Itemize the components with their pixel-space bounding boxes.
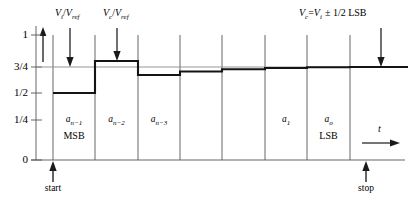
y-tick-label-zero: 0 — [6, 154, 28, 165]
y-tick-label-one-quarter: 1/4 — [2, 114, 28, 125]
time-axis-arrow — [362, 139, 400, 146]
start-event-label: start — [33, 184, 73, 194]
stop-event-label: stop — [346, 184, 386, 194]
bit-cell-label-msb: an−1 — [53, 115, 95, 127]
y-tick-label-1: 1 — [6, 29, 28, 40]
start-arrow — [49, 161, 56, 182]
y-axis-arrow — [40, 27, 47, 62]
dac-trial-waveform — [53, 61, 408, 93]
y-tick-label-three-quarters: 3/4 — [2, 61, 28, 72]
bit-subscript: n−2 — [113, 119, 125, 127]
cell-divider-group — [53, 35, 350, 160]
bit-subscript: 1 — [287, 119, 291, 127]
result-annotation: Vc=Vi± 1/2 LSB — [299, 8, 367, 21]
bit-subscript: n−3 — [156, 119, 168, 127]
result-rhs-subscript: i — [320, 13, 322, 21]
waveform-svg — [0, 0, 416, 205]
bit-cell-note-msb: MSB — [53, 131, 95, 141]
bit-cell-label-n2: an−2 — [95, 115, 138, 127]
vi-denominator-subscript: ref — [72, 13, 80, 21]
bit-subscript: n−1 — [71, 119, 83, 127]
bit-cell-note-lsb: LSB — [307, 131, 350, 141]
adc-conversion-figure: 1 3/4 1/2 1/4 0 Vi/Vref Vc/Vref Vc=Vi± 1… — [0, 0, 416, 205]
bit-cell-label-n3: an−3 — [138, 115, 180, 127]
vi-annotation-arrow — [66, 28, 73, 67]
stop-arrow — [362, 161, 369, 182]
bit-cell-label-a1: a1 — [265, 115, 307, 127]
x-axis-label: t — [378, 124, 381, 134]
bit-subscript: o — [329, 119, 333, 127]
vc-annotation-arrow — [113, 28, 120, 61]
vc-denominator-subscript: ref — [121, 13, 129, 21]
result-annotation-arrow — [377, 28, 384, 67]
y-tick-label-one-half: 1/2 — [2, 87, 28, 98]
result-tail: ± 1/2 LSB — [325, 7, 367, 18]
y-tick-marks — [31, 35, 42, 160]
bit-cell-label-a0: ao — [307, 115, 350, 127]
vi-over-vref-annotation: Vi/Vref — [55, 8, 79, 21]
vc-over-vref-annotation: Vc/Vref — [103, 8, 129, 21]
